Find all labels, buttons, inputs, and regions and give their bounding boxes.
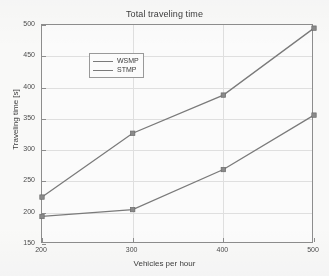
data-point-wsmp-200 [40, 195, 44, 199]
x-axis-title: Vehicles per hour [0, 259, 329, 268]
x-axis-tick-label: 200 [26, 246, 56, 253]
y-axis-tick [42, 244, 46, 245]
x-axis-tick-label: 400 [207, 246, 237, 253]
x-axis-tick-label: 500 [298, 246, 328, 253]
y-axis-tick-label: 200 [9, 208, 35, 215]
legend-line-swatch-icon [93, 61, 113, 62]
series-line-wsmp [42, 28, 314, 197]
data-point-wsmp-400 [221, 93, 225, 97]
chart-legend: WSMPSTMP [89, 53, 144, 78]
data-point-stmp-500 [312, 113, 316, 117]
chart-page: Total traveling time Traveling time [s] … [0, 0, 329, 276]
data-point-stmp-300 [130, 207, 134, 211]
legend-item-wsmp[interactable]: WSMP [93, 57, 139, 65]
data-series-layer [42, 25, 314, 244]
chart-title: Total traveling time [0, 9, 329, 19]
legend-item-stmp[interactable]: STMP [93, 66, 139, 74]
data-point-wsmp-500 [312, 26, 316, 30]
legend-line-swatch-icon [93, 70, 113, 71]
data-point-stmp-400 [221, 167, 225, 171]
series-line-stmp [42, 115, 314, 216]
y-axis-tick-label: 500 [9, 20, 35, 27]
y-axis-tick-label: 250 [9, 176, 35, 183]
legend-item-label: WSMP [117, 57, 139, 65]
y-axis-tick-label: 400 [9, 83, 35, 90]
y-axis-tick-label: 350 [9, 114, 35, 121]
x-axis-tick [314, 238, 315, 242]
data-point-wsmp-300 [130, 131, 134, 135]
y-axis-tick-label: 450 [9, 51, 35, 58]
plot-area: WSMPSTMP [41, 24, 313, 243]
x-axis-tick-label: 300 [117, 246, 147, 253]
legend-item-label: STMP [117, 66, 136, 74]
data-point-stmp-200 [40, 214, 44, 218]
y-axis-tick-label: 300 [9, 145, 35, 152]
y-axis-tick-label: 150 [9, 239, 35, 246]
